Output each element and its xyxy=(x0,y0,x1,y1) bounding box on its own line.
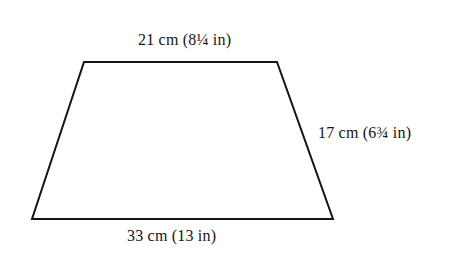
diagram-canvas: 21 cm (8¼ in) 17 cm (6¾ in) 33 cm (13 in… xyxy=(0,0,458,275)
dimension-label-top-side: 21 cm (8¼ in) xyxy=(138,30,231,50)
trapezoid-outline xyxy=(32,62,333,219)
dimension-label-bottom-side: 33 cm (13 in) xyxy=(127,226,216,246)
dimension-label-right-side: 17 cm (6¾ in) xyxy=(318,123,411,143)
